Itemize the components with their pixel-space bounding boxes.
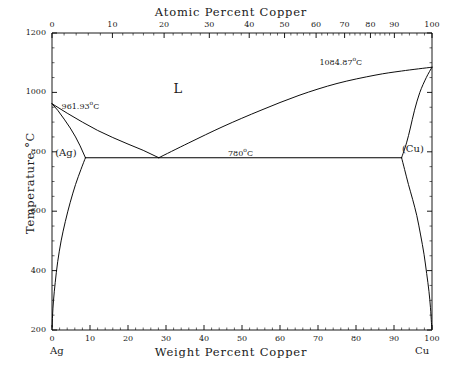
top-tick-label: 50 [268,20,302,29]
eutectic-temperature-label: 780oC [228,146,253,158]
cu-solid-solution-label: (Cu) [402,143,424,154]
cu-melting-point-label: 1084.87oC [319,55,362,67]
bottom-tick-label: 0 [35,334,69,343]
y-tick-label: 800 [12,147,46,156]
bottom-tick-label: 70 [301,334,335,343]
y-tick-label: 1000 [12,87,46,96]
bottom-tick-label: 30 [149,334,183,343]
bottom-tick-label: 10 [73,334,107,343]
bottom-tick-label: 50 [225,334,259,343]
y-tick-label: 200 [12,325,46,334]
liquid-region-label: L [173,81,182,96]
phase-diagram-figure: Atomic Percent Copper Temperature °C Wei… [0,0,462,372]
y-tick-label: 1200 [12,28,46,37]
bottom-tick-label: 20 [111,334,145,343]
ag-melting-point-label: 961.93oC [62,99,100,111]
ag-solid-solution-label: (Ag) [55,147,76,158]
top-tick-label: 40 [232,20,266,29]
plot-area [0,0,462,372]
top-tick-label: 30 [192,20,226,29]
y-tick-label: 400 [12,266,46,275]
top-tick-label: 90 [377,20,411,29]
y-tick-label: 600 [12,206,46,215]
bottom-tick-label: 90 [377,334,411,343]
top-tick-label: 100 [415,20,449,29]
curve-cu-solvus [402,158,432,329]
bottom-tick-label: 60 [263,334,297,343]
top-tick-label: 10 [95,20,129,29]
curve-cu-liquidus [159,67,432,158]
bottom-tick-label: 100 [415,334,449,343]
top-tick-label: 20 [147,20,181,29]
curve-ag-solvus [52,158,85,327]
bottom-tick-label: 40 [187,334,221,343]
bottom-tick-label: 80 [339,334,373,343]
